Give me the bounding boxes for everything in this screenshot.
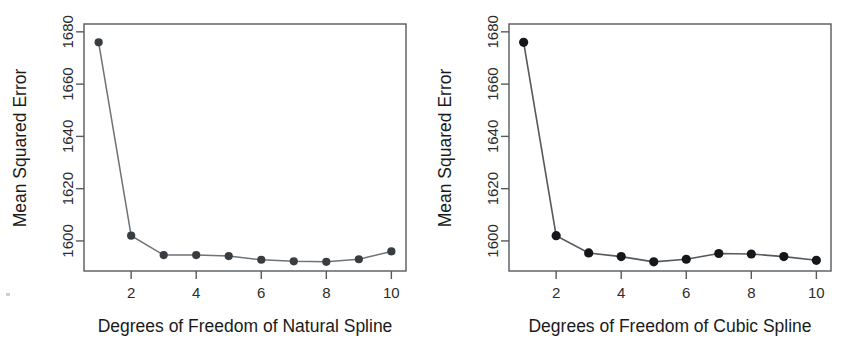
y-tick-label: 1620 xyxy=(60,172,77,205)
data-point xyxy=(127,232,135,240)
x-tick-label: 6 xyxy=(682,284,690,301)
data-point xyxy=(322,258,330,266)
series-line xyxy=(524,42,817,262)
x-tick-label: 6 xyxy=(257,284,265,301)
data-point xyxy=(387,247,395,255)
y-tick-label: 1660 xyxy=(485,67,502,100)
data-point xyxy=(714,249,723,258)
y-axis-ticks-left: 16001620164016601680 xyxy=(60,15,85,257)
y-tick-label: 1640 xyxy=(60,120,77,153)
x-tick-label: 2 xyxy=(552,284,560,301)
x-tick-label: 4 xyxy=(617,284,625,301)
y-tick-label: 1600 xyxy=(60,224,77,257)
data-point xyxy=(682,255,691,264)
y-axis-title-left: Mean Squared Error xyxy=(10,69,30,228)
data-point xyxy=(257,256,265,264)
x-tick-label: 10 xyxy=(383,284,400,301)
data-point xyxy=(779,252,788,261)
x-axis-ticks-left: 246810 xyxy=(127,271,400,301)
data-series-right xyxy=(519,38,821,267)
y-tick-label: 1640 xyxy=(485,120,502,153)
data-point xyxy=(95,38,103,46)
figure-two-panel-spline-mse: 16001620164016601680 246810 Degrees of F… xyxy=(0,0,850,357)
data-point xyxy=(617,252,626,261)
y-tick-label: 1680 xyxy=(60,15,77,48)
chart-cubic-spline: 16001620164016601680 246810 Degrees of F… xyxy=(425,0,850,357)
data-point xyxy=(584,248,593,257)
x-axis-ticks-right: 246810 xyxy=(552,271,825,301)
data-point xyxy=(192,251,200,259)
y-tick-label: 1600 xyxy=(485,224,502,257)
data-point xyxy=(290,257,298,265)
x-tick-label: 10 xyxy=(808,284,825,301)
y-tick-label: 1660 xyxy=(60,67,77,100)
data-point xyxy=(519,38,528,47)
x-tick-label: 8 xyxy=(747,284,755,301)
x-axis-title-left: Degrees of Freedom of Natural Spline xyxy=(98,316,393,336)
y-axis-ticks-right: 16001620164016601680 xyxy=(485,15,510,257)
x-axis-title-right: Degrees of Freedom of Cubic Spline xyxy=(528,316,811,336)
data-point xyxy=(225,252,233,260)
y-tick-label: 1620 xyxy=(485,172,502,205)
y-tick-label: 1680 xyxy=(485,15,502,48)
data-series-left xyxy=(95,38,396,266)
data-point xyxy=(552,231,561,240)
chart-natural-spline: 16001620164016601680 246810 Degrees of F… xyxy=(0,0,425,357)
x-tick-label: 4 xyxy=(192,284,200,301)
x-tick-label: 8 xyxy=(322,284,330,301)
y-axis-title-right: Mean Squared Error xyxy=(435,69,455,228)
x-tick-label: 2 xyxy=(127,284,135,301)
panel-natural-spline: 16001620164016601680 246810 Degrees of F… xyxy=(0,0,425,357)
data-point xyxy=(747,249,756,258)
data-point xyxy=(812,256,821,265)
scan-artifact xyxy=(6,293,10,296)
data-point xyxy=(649,257,658,266)
panel-cubic-spline: 16001620164016601680 246810 Degrees of F… xyxy=(425,0,850,357)
series-line xyxy=(99,42,392,262)
data-point xyxy=(160,251,168,259)
data-point xyxy=(355,255,363,263)
